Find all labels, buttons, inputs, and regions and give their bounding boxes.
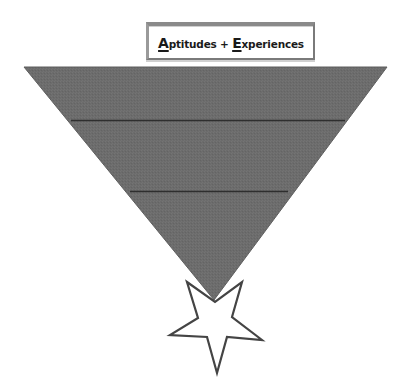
funnel-diagram [0, 0, 411, 392]
funnel-triangle [24, 67, 387, 300]
